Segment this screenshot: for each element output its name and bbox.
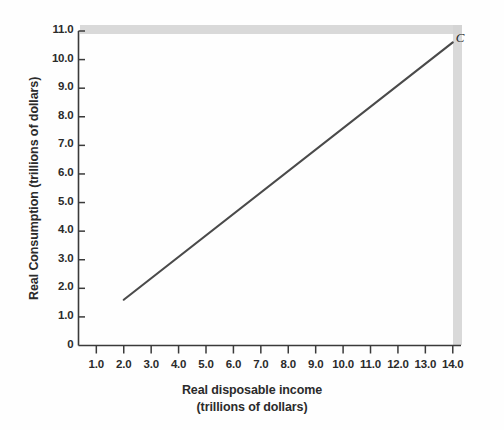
x-axis-title: Real disposable income (trillions of dol… [0, 382, 504, 416]
y-tick-label: 11.0 [53, 23, 74, 35]
y-axis-title: Real Consumption (trillions of dollars) [27, 77, 41, 300]
data-series-group [124, 42, 453, 299]
y-tick-label: 4.0 [58, 223, 73, 235]
x-axis-title-line1: Real disposable income [0, 382, 504, 399]
y-tick-label: 5.0 [58, 195, 73, 207]
y-tick-label: 7.0 [58, 137, 73, 149]
y-tick-label: 2.0 [58, 280, 73, 292]
series-label-c: C [456, 30, 465, 46]
consumption-line [124, 42, 453, 299]
y-tick-label: 10.0 [52, 52, 74, 64]
y-tick-label: 9.0 [58, 80, 73, 92]
y-tick-label: 8.0 [58, 109, 73, 121]
plot-right-shadow [453, 25, 462, 345]
y-tick-label: 0 [67, 338, 73, 350]
x-axis-ticks [96, 346, 452, 354]
x-axis-title-line2: (trillions of dollars) [0, 399, 504, 416]
x-tick-label: 14.0 [433, 358, 473, 370]
y-axis-ticks [79, 31, 86, 317]
plot-top-shadow [80, 25, 462, 34]
y-tick-label: 6.0 [58, 166, 73, 178]
y-tick-label: 3.0 [58, 252, 73, 264]
consumption-function-chart: 01.02.03.04.05.06.07.08.09.010.011.0 1.0… [0, 0, 504, 430]
y-tick-label: 1.0 [58, 309, 73, 321]
